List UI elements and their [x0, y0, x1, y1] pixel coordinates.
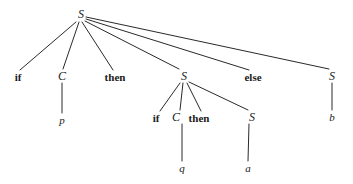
tree-node-if1: if — [15, 72, 22, 83]
tree-edge — [20, 22, 76, 70]
tree-node-if2: if — [153, 113, 160, 124]
tree-edge — [86, 19, 249, 70]
tree-node-s3: S — [249, 111, 255, 123]
tree-edge — [82, 22, 113, 70]
tree-node-p1: p — [59, 115, 65, 126]
tree-node-c1: C — [58, 70, 66, 82]
tree-edge — [63, 22, 79, 69]
tree-node-s0: S — [78, 8, 84, 20]
parse-tree-figure: SifCthenSelseSpifCthenSbqa — [0, 0, 353, 184]
tree-node-s2: S — [329, 70, 335, 82]
tree-node-c2: C — [172, 111, 180, 123]
tree-node-then2: then — [189, 113, 210, 124]
tree-edge — [86, 17, 329, 69]
tree-node-a1: a — [245, 163, 251, 174]
tree-node-b1: b — [329, 112, 335, 123]
tree-node-then1: then — [105, 72, 126, 83]
tree-edge — [180, 83, 183, 110]
tree-edge — [160, 83, 180, 111]
tree-node-s1: S — [181, 70, 187, 82]
tree-edge — [248, 124, 249, 161]
tree-edges-layer — [0, 0, 353, 184]
tree-node-q1: q — [179, 163, 185, 174]
tree-node-else1: else — [244, 72, 261, 83]
tree-edge — [85, 21, 179, 69]
